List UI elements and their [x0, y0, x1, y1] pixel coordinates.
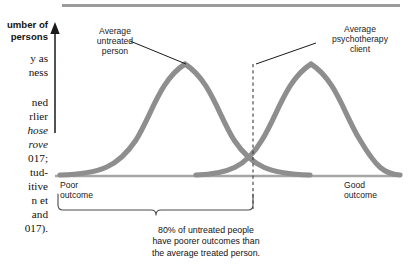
- axis-label-poor-outcome: Poor outcome: [60, 180, 116, 200]
- figure-container: Average untreated person Average psychot…: [0, 0, 415, 280]
- leader-line-client: [256, 43, 316, 64]
- y-axis-arrow: [50, 22, 59, 133]
- curve-client: [196, 64, 400, 175]
- annotation-average-psychotherapy-client: Average psychotherapy client: [318, 24, 402, 55]
- axis-label-good-outcome: Good outcome: [344, 180, 404, 200]
- figure-caption: 80% of untreated people have poorer outc…: [86, 225, 326, 259]
- annotation-average-untreated-person: Average untreated person: [78, 26, 152, 57]
